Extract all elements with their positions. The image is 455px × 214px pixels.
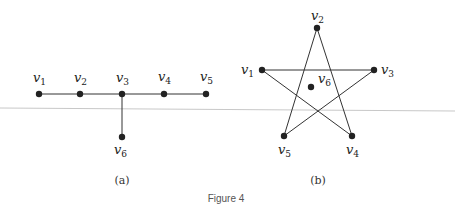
- graph-b-node-v1: [259, 67, 265, 73]
- graph-b-node-v5: [281, 133, 287, 139]
- graph-b-label-v6: v6: [318, 71, 331, 88]
- caption-a: (a): [114, 174, 129, 187]
- graph-b-star: v1v2v3v4v5v6: [241, 8, 394, 159]
- graph-b-node-v4: [349, 133, 355, 139]
- divider-line: [0, 108, 455, 111]
- graph-a-node-v1: [36, 91, 42, 97]
- graph-a-label-v3: v3: [116, 70, 129, 87]
- graph-b-edge-v2-v5: [284, 28, 317, 136]
- graph-b-label-v4: v4: [346, 142, 359, 159]
- graph-b-label-v2: v2: [311, 8, 324, 25]
- caption-b: (b): [310, 174, 326, 187]
- graph-a-label-v6: v6: [114, 142, 127, 159]
- graph-b-edge-v1-v4: [262, 70, 352, 136]
- graph-a-tree: v1v2v3v4v5v6: [33, 69, 213, 159]
- graph-a-label-v4: v4: [158, 69, 171, 86]
- graph-b-node-v6: [308, 84, 314, 90]
- graph-b-label-v5: v5: [278, 142, 291, 159]
- graph-a-node-v4: [161, 91, 167, 97]
- graph-a-node-v5: [203, 91, 209, 97]
- graph-b-label-v1: v1: [241, 62, 254, 79]
- graph-a-node-v2: [77, 91, 83, 97]
- graph-b-node-v3: [371, 67, 377, 73]
- graph-a-label-v1: v1: [33, 70, 46, 87]
- graph-a-node-v3: [119, 91, 125, 97]
- graph-b-label-v3: v3: [381, 62, 394, 79]
- figure-title: Figure 4: [208, 193, 245, 204]
- graph-a-label-v5: v5: [200, 69, 213, 86]
- graph-a-label-v2: v2: [74, 70, 87, 87]
- graph-a-node-v6: [119, 134, 125, 140]
- figure-canvas: v1v2v3v4v5v6 v1v2v3v4v5v6 (a) (b) Figure…: [0, 0, 455, 214]
- graph-b-node-v2: [314, 25, 320, 31]
